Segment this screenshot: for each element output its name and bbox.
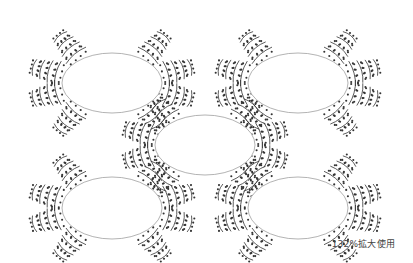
stitch-dot — [30, 222, 32, 224]
stitch-dot — [263, 136, 265, 138]
stitch-dot — [347, 174, 349, 176]
stitch-dot — [355, 220, 357, 222]
stitch-dot — [152, 177, 154, 179]
stitch-dot — [231, 67, 233, 69]
stitch-arc — [32, 216, 37, 232]
stitch-dot — [238, 252, 240, 254]
stitch-arc — [280, 121, 285, 137]
stitch-arc — [218, 184, 223, 200]
stitch-dot — [52, 126, 54, 128]
stitch-dot — [266, 235, 268, 237]
stitch-dot — [37, 220, 39, 222]
stitch-dot — [356, 199, 358, 201]
stitch-dot — [358, 80, 360, 82]
stitch-dot — [247, 219, 249, 221]
stitch-arc — [218, 216, 223, 232]
stitch-dot — [191, 63, 193, 65]
stitch-dot — [44, 72, 46, 74]
stitch-dot — [347, 50, 349, 52]
stitch-dot — [178, 92, 180, 94]
stitch-dot — [190, 230, 192, 232]
stitch-dot — [241, 226, 243, 228]
stitch-dot — [158, 127, 160, 129]
motif-top-right-ellipse — [248, 53, 348, 113]
stitch-dot — [236, 84, 238, 86]
stitch-dot — [152, 139, 154, 141]
stitch-dot — [162, 183, 164, 185]
motif-bottom-right-ellipse — [248, 177, 348, 239]
stitch-dot — [251, 233, 253, 235]
stitch-dot — [168, 167, 170, 169]
stitch-dot — [65, 233, 67, 235]
stitch-dot — [85, 113, 87, 115]
stitch-dot — [328, 109, 330, 111]
stitch-dot — [192, 222, 194, 224]
stitch-dot — [249, 252, 251, 254]
stitch-dot — [378, 96, 380, 98]
stitch-dot — [44, 197, 46, 199]
stitch-dot — [338, 111, 340, 113]
stitch-dot — [184, 99, 186, 101]
stitch-dot — [378, 192, 380, 194]
stitch-dot — [155, 35, 157, 37]
stitch-dot — [323, 175, 325, 177]
stitch-dot — [192, 192, 194, 194]
stitch-dot — [173, 117, 175, 119]
stitch-dot — [358, 209, 360, 211]
stitch-dot — [216, 192, 218, 194]
stitch-dot — [236, 181, 238, 183]
motif-bottom-left-ellipse — [62, 177, 162, 239]
stitch-dot — [131, 127, 133, 129]
stitch-dot — [44, 92, 46, 94]
stitch-dot — [50, 80, 52, 82]
stitch-dot — [253, 129, 255, 131]
stitch-dot — [43, 201, 45, 203]
stitch-arc — [373, 216, 378, 232]
stitch-dot — [138, 159, 140, 161]
stitch-dot — [148, 125, 150, 127]
stitch-dot — [352, 255, 354, 257]
stitch-dot — [364, 92, 366, 94]
stitch-dot — [155, 255, 157, 257]
stitch-dot — [163, 173, 165, 175]
stitch-dot — [156, 99, 158, 101]
stitch-dot — [243, 121, 245, 123]
stitch-dot — [377, 63, 379, 65]
stitch-dot — [216, 222, 218, 224]
stitch-dot — [349, 132, 351, 134]
stitch-dot — [349, 77, 351, 79]
stitch-dot — [184, 190, 186, 192]
stitch-dot — [258, 105, 260, 107]
stitch-dot — [166, 102, 168, 104]
stitch-dot — [253, 35, 255, 37]
stitch-dot — [245, 77, 247, 79]
stitch-dot — [242, 102, 244, 104]
stitch-dot — [251, 99, 253, 101]
stitch-dot — [61, 70, 63, 72]
stitch-dot — [56, 159, 58, 161]
stitch-dot — [261, 231, 263, 233]
stitch-dot — [67, 129, 69, 131]
stitch-dot — [268, 164, 270, 166]
stitch-dot — [266, 109, 268, 111]
stitch-dot — [59, 156, 61, 158]
stitch-dot — [260, 115, 262, 117]
stitch-dot — [29, 217, 31, 219]
stitch-dot — [240, 121, 242, 123]
stitch-dot — [170, 74, 172, 76]
stitch-dot — [247, 50, 249, 52]
stitch-dot — [162, 250, 164, 252]
stitch-dot — [253, 255, 255, 257]
stitch-dot — [369, 61, 371, 63]
stitch-dot — [32, 230, 34, 232]
stitch-dot — [45, 192, 47, 194]
stitch-dot — [377, 188, 379, 190]
stitch-dot — [62, 153, 64, 155]
stitch-dot — [343, 171, 345, 173]
stitch-dot — [271, 134, 273, 136]
stitch-dot — [52, 74, 54, 76]
stitch-dot — [32, 184, 34, 186]
stitch-dot — [356, 74, 358, 76]
stitch-dot — [349, 87, 351, 89]
stitch-dot — [184, 224, 186, 226]
